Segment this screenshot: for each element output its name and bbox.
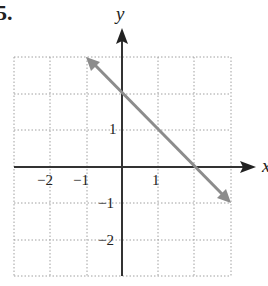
x-axis-label: x [262, 156, 268, 175]
y-tick-neg2: −2 [98, 233, 114, 248]
x-tick-neg1: −1 [73, 173, 89, 188]
y-tick-neg1: −1 [98, 196, 114, 211]
y-tick-1: 1 [109, 122, 117, 137]
problem-number: 5. [0, 2, 13, 24]
coordinate-plane [0, 0, 268, 286]
x-tick-1: 1 [152, 173, 160, 188]
y-axis-label: y [116, 4, 124, 23]
x-tick-neg2: −2 [37, 173, 53, 188]
